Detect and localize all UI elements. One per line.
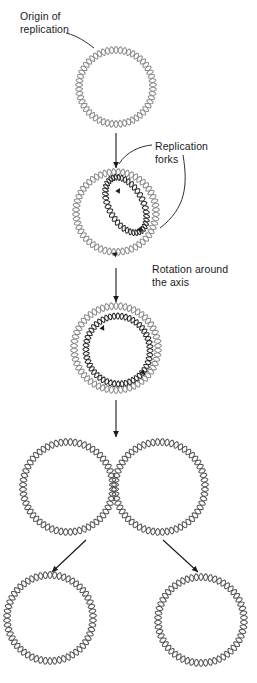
early-theta-structure-strand-b — [73, 169, 160, 256]
arrow-stage4-to-left-daughter — [52, 540, 86, 572]
replication-diagram-canvas — [0, 0, 257, 683]
label-origin-of-replication: Origin of replication — [20, 10, 69, 35]
fork-arrowhead-upper-stage2 — [115, 187, 122, 194]
arrow-stage4-to-right-daughter — [163, 540, 198, 572]
early-theta-structure-strand-a — [73, 169, 160, 256]
interlocked-daughter-circles-right-strand-a — [112, 439, 209, 536]
label-rotation-around-the-axis: Rotation around the axis — [152, 263, 228, 288]
leader-forks-to-upper-fork — [119, 145, 152, 164]
label-replication-forks: Replication forks — [155, 140, 208, 165]
interlocked-daughter-circles-left-strand-b — [20, 439, 117, 536]
dna-strands-layer — [4, 47, 248, 667]
leader-forks-to-lower-fork — [160, 155, 185, 228]
interlocked-daughter-circles-left-strand-a — [20, 439, 117, 536]
fork-direction-arrowheads-layer — [100, 187, 147, 377]
fork-arrowhead-upper-stage3 — [100, 324, 107, 331]
leader-origin-to-circle — [66, 33, 94, 48]
interlocked-daughter-circles-right-strand-b — [112, 439, 209, 536]
